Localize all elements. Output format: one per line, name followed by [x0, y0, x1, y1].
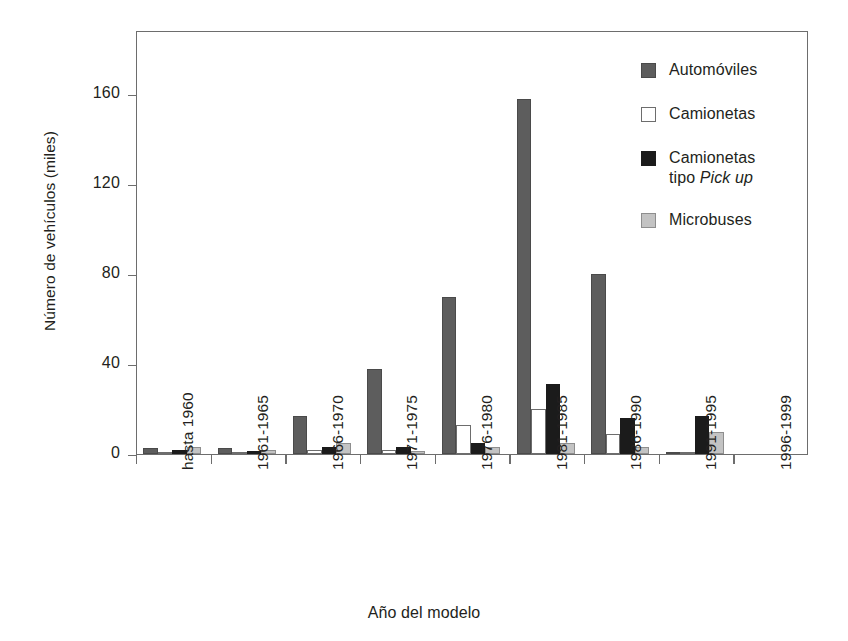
bar-0: [293, 416, 308, 454]
bar-1: [382, 450, 397, 455]
bar-group: [137, 32, 212, 454]
bar-1: [158, 452, 173, 454]
y-axis-title: Número de vehículos (miles): [41, 66, 59, 396]
legend-label: Microbuses: [669, 210, 841, 230]
y-tick-label: 80: [60, 264, 120, 282]
x-tick-label: 1976-1980: [478, 350, 496, 470]
bar-0: [143, 448, 158, 454]
x-tick-mark: [659, 455, 660, 464]
x-tick-mark: [211, 455, 212, 464]
legend-label-line1: Automóviles: [669, 61, 757, 78]
x-tick-label: 1986-1990: [627, 350, 645, 470]
legend-item[interactable]: Camionetastipo Pick up: [641, 148, 841, 188]
x-tick-label: 1971-1975: [403, 350, 421, 470]
x-tick-label: 1991-1995: [702, 350, 720, 470]
bar-0: [367, 369, 382, 455]
y-tick-label: 0: [60, 444, 120, 462]
legend-label-line1: Camionetas: [669, 105, 755, 122]
x-tick-label: 1966-1970: [329, 350, 347, 470]
x-tick-label: hasta 1960: [179, 350, 197, 470]
x-tick-mark: [285, 455, 286, 464]
x-tick-label: 1961-1965: [254, 350, 272, 470]
legend-swatch-icon: [641, 151, 656, 166]
x-tick-mark: [509, 455, 510, 464]
legend-swatch-icon: [641, 107, 656, 122]
x-axis-title: Año del modelo: [0, 604, 848, 622]
legend-label-line1: Camionetas: [669, 149, 755, 166]
bar-0: [666, 452, 681, 454]
bar-0: [218, 448, 233, 454]
x-tick-mark: [360, 455, 361, 464]
bar-0: [517, 99, 532, 455]
legend-item[interactable]: Microbuses: [641, 210, 841, 232]
legend-label-line2-italic: Pick up: [700, 169, 753, 186]
legend-item[interactable]: Automóviles: [641, 60, 841, 82]
bar-1: [680, 452, 695, 454]
legend-swatch-icon: [641, 63, 656, 78]
bar-1: [307, 450, 322, 455]
bar-group: [212, 32, 287, 454]
legend-label-line2: tipo: [669, 169, 700, 186]
legend-label: Camionetas: [669, 104, 841, 124]
y-tick-label: 160: [60, 84, 120, 102]
bar-1: [232, 452, 247, 454]
chart-legend: AutomóvilesCamionetasCamionetastipo Pick…: [641, 60, 841, 254]
bar-chart-figure: Número de vehículos (miles) 04080120160 …: [0, 0, 848, 641]
legend-label: Camionetastipo Pick up: [669, 148, 841, 188]
bar-0: [591, 274, 606, 454]
bar-group: [286, 32, 361, 454]
legend-label-line1: Microbuses: [669, 211, 752, 228]
legend-label: Automóviles: [669, 60, 841, 80]
x-tick-mark: [733, 455, 734, 464]
bar-1: [531, 409, 546, 454]
bar-group: [361, 32, 436, 454]
x-tick-mark: [136, 455, 137, 464]
bar-1: [456, 425, 471, 454]
bar-group: [436, 32, 511, 454]
x-tick-label: 1981-1985: [553, 350, 571, 470]
y-tick-label: 40: [60, 354, 120, 372]
legend-item[interactable]: Camionetas: [641, 104, 841, 126]
bar-1: [606, 434, 621, 454]
x-tick-mark: [435, 455, 436, 464]
bar-0: [442, 297, 457, 455]
y-tick-label: 120: [60, 174, 120, 192]
x-tick-mark: [584, 455, 585, 464]
x-tick-label: 1996-1999: [777, 350, 795, 470]
bar-group: [510, 32, 585, 454]
legend-swatch-icon: [641, 213, 656, 228]
